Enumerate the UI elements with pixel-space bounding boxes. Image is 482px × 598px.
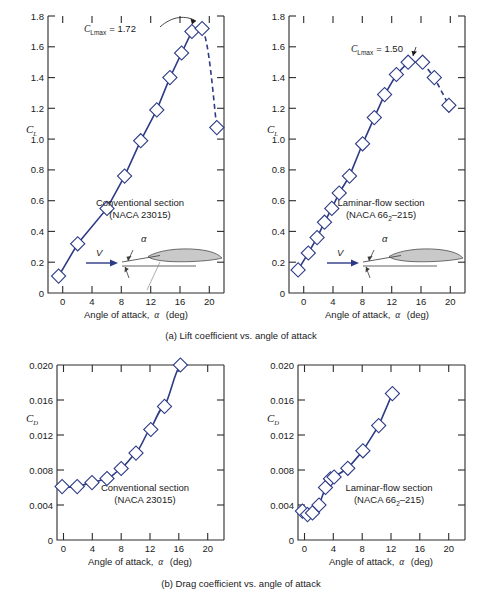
lift-conventional-svg: 1.8 1.6 1.4 1.2 1.0 0.8 0.6 0.4 0.2 0 0 … (0, 0, 241, 320)
y-axis-label: CL (267, 123, 278, 137)
x-tick-label: 4 (331, 543, 336, 554)
section-designation: (NACA 662–215) (354, 494, 424, 507)
lift-data-markers (52, 21, 224, 283)
chart-lift-conventional: 1.8 1.6 1.4 1.2 1.0 0.8 0.6 0.4 0.2 0 0 … (0, 0, 241, 320)
y-axis-label: CD (26, 412, 38, 426)
section-name: Laminar-flow section (337, 197, 424, 208)
y-tick-label: 0.020 (29, 360, 53, 371)
y-tick-label: 0.016 (29, 395, 53, 406)
alpha-symbol: α (141, 233, 147, 244)
y-tick-label: 0.4 (272, 226, 285, 237)
lift-laminar-svg: 1.8 1.6 1.4 1.2 1.0 0.8 0.6 0.4 0.2 0 0 … (241, 0, 482, 320)
y-tick-label: 1.6 (272, 41, 285, 52)
x-axis-title: Angle of attack, α (deg) (329, 556, 433, 567)
clmax-arrowhead (412, 51, 418, 56)
drag-conventional-svg: 0.020 0.016 0.012 0.008 0.004 0 0 4 8 12… (0, 350, 241, 578)
y-tick-label: 0.6 (272, 195, 285, 206)
velocity-arrowhead (351, 260, 359, 267)
x-tick-label: 0 (60, 296, 65, 307)
section-label-laminar: Laminar-flow section (NACA 662–215) (337, 197, 424, 222)
x-tick-labels-drag-conventional: 0 4 8 12 16 20 (61, 543, 213, 554)
section-label-conventional: Conventional section (NACA 23015) (96, 197, 184, 220)
y-tick-label: 1.4 (272, 72, 285, 83)
y-tick-label: 0.004 (270, 500, 294, 511)
chart-drag-laminar: 0.020 0.016 0.012 0.008 0.004 0 0 4 8 12… (241, 350, 482, 578)
y-tick-label: 1.2 (31, 103, 44, 114)
y-tick-label: 0.004 (29, 500, 53, 511)
section-designation: (NACA 662–215) (346, 209, 416, 222)
drag-data-markers (55, 358, 187, 494)
x-tick-label: 12 (145, 296, 156, 307)
y-tick-label: 0.2 (31, 257, 44, 268)
x-tick-label: 16 (415, 543, 426, 554)
section-label-drag-conventional: Conventional section (NACA 23015) (101, 482, 189, 505)
lift-curve-dashed (202, 29, 217, 128)
x-axis-title: Angle of attack, α (deg) (325, 309, 429, 320)
y-tick-label: 0.020 (270, 360, 294, 371)
velocity-arrowhead (110, 260, 118, 267)
y-axis-label: CD (267, 412, 279, 426)
airfoil-diagram-conventional: α V (86, 233, 222, 290)
x-tick-label: 8 (360, 296, 365, 307)
section-name: Laminar-flow section (345, 482, 432, 493)
x-tick-label: 16 (416, 296, 427, 307)
x-tick-labels-lift-conventional: 0 4 8 12 16 20 (60, 296, 215, 307)
x-tick-label: 16 (174, 543, 185, 554)
y-tick-label: 1.8 (31, 11, 44, 22)
caption-a-text: (a) Lift coefficient vs. angle of attack (165, 330, 316, 341)
x-tick-label: 4 (89, 296, 94, 307)
x-tick-label: 0 (301, 296, 306, 307)
caption-a: (a) Lift coefficient vs. angle of attack (0, 330, 482, 341)
y-tick-labels-drag-conventional: 0.020 0.016 0.012 0.008 0.004 0 (29, 360, 53, 546)
y-tick-label: 0 (280, 288, 285, 299)
alpha-symbol: α (382, 233, 388, 244)
y-tick-label: 0 (39, 288, 44, 299)
section-designation: (NACA 23015) (109, 209, 170, 220)
section-name: Conventional section (96, 197, 184, 208)
x-axis-title: Angle of attack, α (deg) (88, 556, 192, 567)
y-tick-label: 0.016 (270, 395, 294, 406)
x-tick-label: 4 (330, 296, 335, 307)
x-tick-label: 0 (302, 543, 307, 554)
x-tick-label: 8 (119, 296, 124, 307)
x-tick-label: 20 (202, 543, 213, 554)
clmax-label: CLmax= 1.50 (351, 43, 403, 56)
x-tick-labels-drag-laminar: 0 4 8 12 16 20 (302, 543, 454, 554)
axes-drag-laminar (298, 365, 465, 540)
section-label-drag-laminar: Laminar-flow section (NACA 662–215) (345, 482, 432, 507)
x-tick-label: 0 (61, 543, 66, 554)
drag-laminar-svg: 0.020 0.016 0.012 0.008 0.004 0 0 4 8 12… (241, 350, 482, 578)
x-tick-label: 8 (360, 543, 365, 554)
x-tick-label: 20 (204, 296, 215, 307)
y-tick-label: 0.8 (31, 164, 44, 175)
y-tick-label: 1.2 (272, 103, 285, 114)
y-tick-labels-drag-laminar: 0.020 0.016 0.012 0.008 0.004 0 (270, 360, 294, 546)
airfoil-diagram-laminar: α V (327, 233, 463, 278)
velocity-symbol: V (337, 247, 345, 258)
y-tick-label: 0.8 (272, 164, 285, 175)
y-tick-label: 0.012 (29, 430, 53, 441)
section-name: Conventional section (101, 482, 189, 493)
x-tick-label: 12 (145, 543, 156, 554)
x-tick-label: 20 (445, 296, 456, 307)
y-tick-label: 1.6 (31, 41, 44, 52)
section-designation: (NACA 23015) (114, 494, 175, 505)
clmax-label: CLmax= 1.72 (84, 23, 136, 36)
x-tick-label: 4 (90, 543, 95, 554)
y-tick-label: 0.4 (31, 226, 44, 237)
clmax-annotation-conventional: CLmax= 1.72 (84, 17, 196, 35)
y-tick-label: 0 (48, 535, 53, 546)
y-tick-label: 1.4 (31, 72, 44, 83)
y-tick-label: 0 (289, 535, 294, 546)
y-tick-label: 1.8 (272, 11, 285, 22)
x-tick-label: 8 (119, 543, 124, 554)
clmax-annotation-laminar: CLmax= 1.50 (351, 43, 417, 56)
x-tick-label: 12 (386, 296, 397, 307)
y-tick-labels-lift-conventional: 1.8 1.6 1.4 1.2 1.0 0.8 0.6 0.4 0.2 0 (31, 11, 44, 299)
x-axis-title: Angle of attack, α (deg) (84, 309, 188, 320)
x-tick-label: 12 (386, 543, 397, 554)
x-tick-labels-lift-laminar: 0 4 8 12 16 20 (301, 296, 456, 307)
velocity-symbol: V (96, 247, 104, 258)
y-tick-label: 0.012 (270, 430, 294, 441)
caption-b-text: (b) Drag coefficient vs. angle of attack (161, 578, 320, 589)
